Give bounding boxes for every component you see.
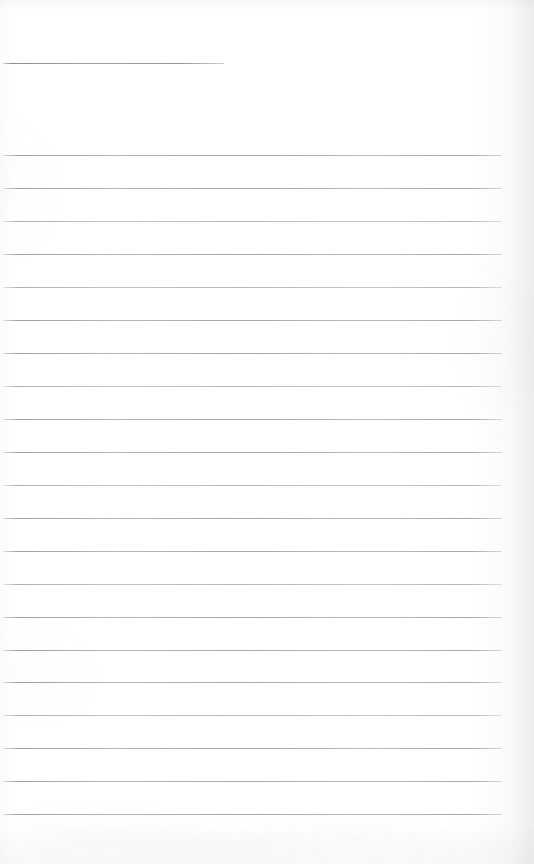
ruled-lines-layer: [0, 0, 534, 864]
rule-line: [3, 715, 502, 716]
header-rule-line: [3, 63, 224, 64]
rule-line: [3, 188, 502, 189]
rule-line: [3, 584, 502, 585]
rule-line: [3, 518, 502, 519]
rule-line: [3, 551, 502, 552]
rule-line: [3, 452, 502, 453]
rule-line: [3, 814, 502, 815]
rule-line: [3, 386, 502, 387]
rule-line: [3, 485, 502, 486]
rule-line: [3, 155, 502, 156]
scanned-page: [0, 0, 534, 864]
rule-line: [3, 682, 502, 683]
rule-line: [3, 254, 502, 255]
rule-line: [3, 320, 502, 321]
rule-line: [3, 287, 502, 288]
rule-line: [3, 419, 502, 420]
rule-line: [3, 221, 502, 222]
rule-line: [3, 781, 502, 782]
rule-line: [3, 650, 502, 651]
rule-line: [3, 617, 502, 618]
rule-line: [3, 353, 502, 354]
rule-line: [3, 748, 502, 749]
